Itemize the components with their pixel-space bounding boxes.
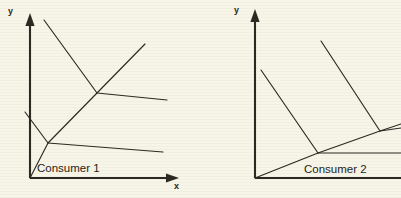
upper-demand-branch (97, 93, 167, 100)
y-axis-label: y (8, 7, 13, 16)
upper-budget-line (321, 41, 380, 131)
panel-caption-consumer-2: Consumer 2 (304, 164, 367, 176)
consumer-1-plot (0, 0, 200, 198)
lower-demand-branch (48, 143, 163, 152)
consumer-2-plot (200, 0, 401, 198)
lower-budget-line (25, 112, 48, 143)
figure-canvas: y x Consumer 1 y Consumer 2 (0, 0, 401, 198)
y-axis-label: y (234, 6, 239, 15)
y-axis-arrowhead (250, 9, 259, 22)
lower-budget-line (261, 70, 318, 153)
upper-budget-line (44, 20, 97, 93)
panel-consumer-2: y Consumer 2 (200, 0, 401, 198)
y-axis-arrowhead (25, 13, 34, 26)
x-axis-label: x (174, 182, 179, 191)
panel-consumer-1: y x Consumer 1 (0, 0, 200, 198)
expansion-path-line (30, 44, 145, 178)
panel-caption-consumer-1: Consumer 1 (37, 163, 100, 175)
